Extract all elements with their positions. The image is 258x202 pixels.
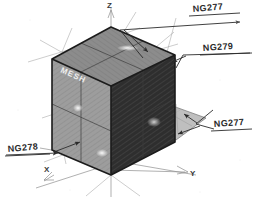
- callout-mid-right[interactable]: NG279: [172, 41, 252, 68]
- axis-arrow-y: [177, 166, 188, 174]
- right-face-highlight: [147, 117, 161, 127]
- callout-lower-right-label: NG277: [213, 117, 244, 129]
- isometric-cube-diagram: MESH NG277 NG279 NG277 NG278: [0, 0, 258, 202]
- axis-label-x: X: [44, 165, 50, 174]
- top-face-highlight: [117, 45, 139, 51]
- axis-label-y: Y: [190, 169, 196, 178]
- diagram-canvas: MESH NG277 NG279 NG277 NG278: [0, 0, 258, 202]
- mesh-cube: MESH: [52, 27, 175, 175]
- left-face-highlight-low: [96, 149, 108, 157]
- callout-mid-right-leader: [176, 53, 252, 68]
- callout-lower-right-underline: [211, 129, 252, 131]
- axis-label-z: Z: [107, 1, 112, 10]
- callout-mid-right-label: NG279: [202, 41, 233, 53]
- left-face-highlight: [73, 104, 83, 112]
- callout-lower-left-label: NG278: [7, 141, 38, 154]
- callout-top-right-label: NG277: [192, 1, 223, 14]
